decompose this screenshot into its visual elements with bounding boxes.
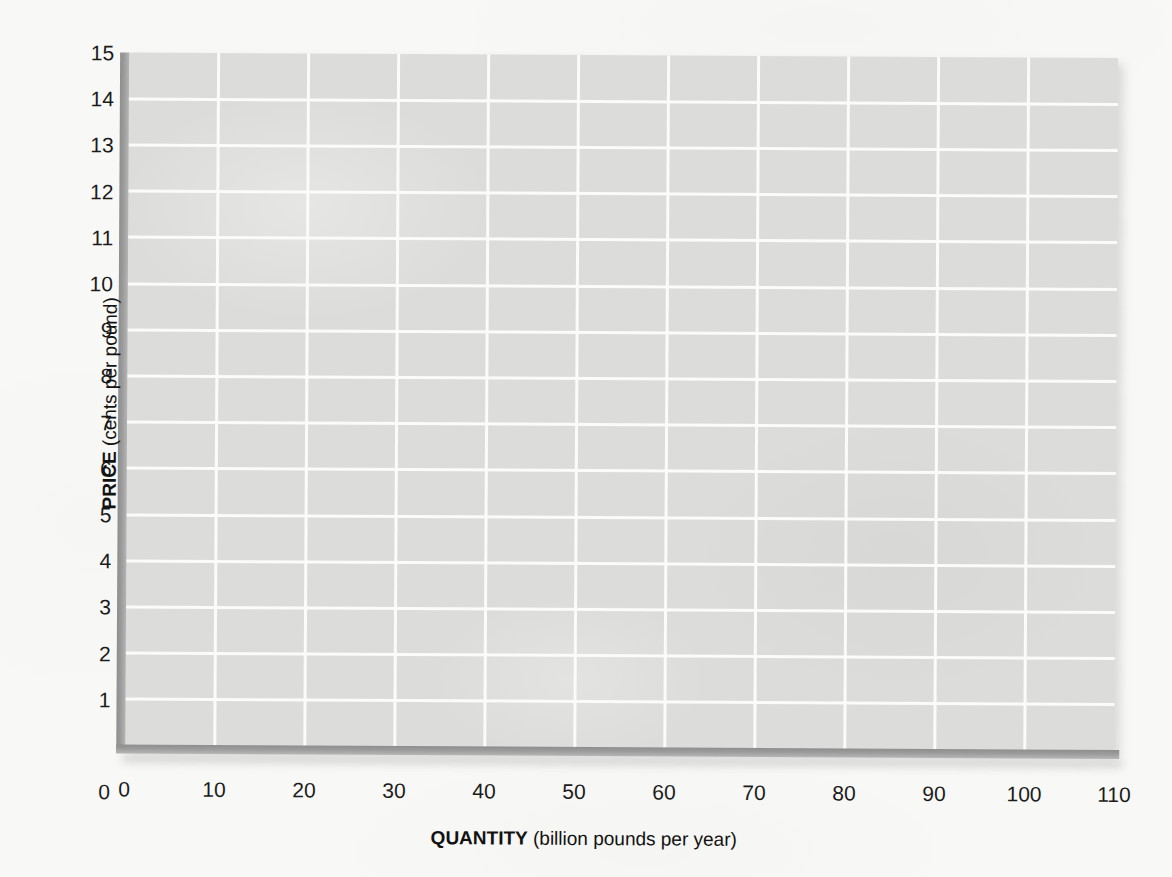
x-axis-tick-labels: 0102030405060708090100110 bbox=[0, 778, 1170, 815]
x-tick-label: 20 bbox=[274, 779, 334, 800]
gridline-vertical bbox=[213, 53, 220, 746]
x-axis-title: QUANTITY (billion pounds per year) bbox=[0, 825, 1170, 854]
y-tick-label: 13 bbox=[74, 135, 114, 156]
x-tick-label: 30 bbox=[364, 780, 424, 801]
plot-area-wrapper bbox=[124, 52, 1118, 751]
y-tick-label: 15 bbox=[74, 42, 114, 63]
x-tick-label: 60 bbox=[634, 781, 694, 802]
x-tick-label: 10 bbox=[184, 779, 244, 800]
y-axis-title-strong: PRICE bbox=[99, 451, 120, 509]
gridline-horizontal bbox=[125, 698, 1115, 707]
x-tick-label: 70 bbox=[724, 782, 784, 803]
gridline-vertical bbox=[393, 54, 400, 747]
horizontal-gridlines bbox=[128, 52, 1118, 58]
x-tick-label: 50 bbox=[544, 781, 604, 802]
y-tick-label: 11 bbox=[73, 227, 113, 248]
x-tick-label: 100 bbox=[994, 783, 1054, 804]
x-axis-title-unit: (billion pounds per year) bbox=[533, 828, 737, 850]
gridline-horizontal bbox=[126, 421, 1116, 430]
gridline-vertical bbox=[1023, 57, 1030, 750]
x-tick-label: 80 bbox=[814, 782, 874, 803]
gridline-vertical bbox=[303, 53, 310, 746]
x-tick-label: 0 bbox=[94, 778, 154, 799]
y-tick-label: 1 bbox=[70, 689, 110, 710]
chart-figure: 0123456789101112131415 01020304050607080… bbox=[0, 0, 1172, 877]
y-tick-label: 14 bbox=[74, 88, 114, 109]
y-axis-title-unit: (cents per pound) bbox=[99, 297, 121, 446]
gridline-horizontal bbox=[126, 374, 1116, 383]
y-axis-title: PRICE (cents per pound) bbox=[98, 253, 122, 553]
gridline-horizontal bbox=[127, 236, 1117, 245]
gridline-vertical bbox=[933, 57, 940, 750]
gridline-horizontal bbox=[127, 282, 1117, 291]
gridline-vertical bbox=[663, 55, 670, 748]
gridline-vertical bbox=[753, 56, 760, 749]
vertical-gridlines bbox=[128, 52, 1118, 58]
gridline-vertical bbox=[483, 54, 490, 747]
gridline-horizontal bbox=[127, 190, 1117, 199]
plot-area bbox=[124, 52, 1118, 751]
y-tick-label: 2 bbox=[71, 643, 111, 664]
gridline-horizontal bbox=[125, 559, 1115, 568]
gridline-vertical bbox=[573, 55, 580, 748]
plot-area-texture bbox=[124, 52, 1118, 751]
gridline-vertical bbox=[843, 56, 850, 749]
y-tick-label: 12 bbox=[73, 181, 113, 202]
gridline-horizontal bbox=[128, 143, 1118, 152]
gridline-horizontal bbox=[128, 97, 1118, 106]
gridline-horizontal bbox=[125, 652, 1115, 661]
y-tick-label: 3 bbox=[71, 597, 111, 618]
y-tick-label: 4 bbox=[71, 550, 111, 571]
gridline-horizontal bbox=[127, 328, 1117, 337]
x-tick-label: 40 bbox=[454, 780, 514, 801]
gridline-horizontal bbox=[126, 513, 1116, 522]
x-tick-label: 90 bbox=[904, 783, 964, 804]
x-axis-title-strong: QUANTITY bbox=[431, 827, 528, 849]
x-tick-label: 110 bbox=[1084, 784, 1144, 805]
gridline-horizontal bbox=[126, 467, 1116, 476]
gridline-horizontal bbox=[125, 605, 1115, 614]
